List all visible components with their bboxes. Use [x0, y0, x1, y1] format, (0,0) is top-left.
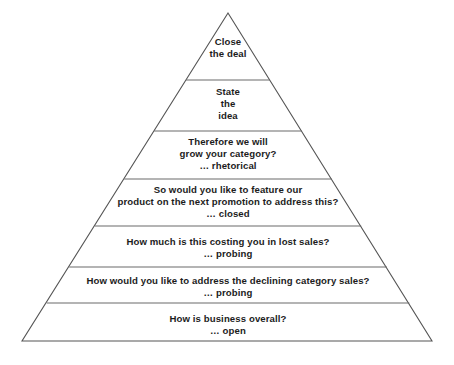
- pyramid-band-closed: So would you like to feature our product…: [85, 184, 371, 220]
- pyramid-band-probing-lost-sales: How much is this costing you in lost sal…: [62, 236, 394, 260]
- pyramid-band-probing-declining-sales: How would you like to address the declin…: [42, 275, 414, 299]
- pyramid-band-rhetorical: Therefore we will grow your category? … …: [123, 136, 333, 172]
- pyramid-diagram: Close the deal State the idea Therefore …: [0, 0, 454, 365]
- pyramid-band-close-the-deal: Close the deal: [148, 36, 308, 60]
- pyramid-band-labels: Close the deal State the idea Therefore …: [0, 0, 454, 365]
- pyramid-band-state-the-idea: State the idea: [148, 86, 308, 122]
- pyramid-band-open: How is business overall? … open: [30, 313, 426, 337]
